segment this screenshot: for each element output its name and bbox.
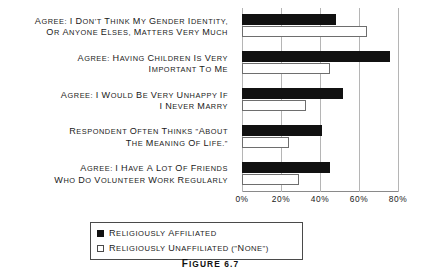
category-axis-labels: AGREE: I DON'T THINK MY GENDER IDENTITY,… [0, 8, 232, 192]
x-tick-label: 80% [389, 194, 407, 204]
bar-group [242, 87, 398, 113]
bar-unaffiliated [242, 137, 289, 148]
legend-label-affiliated: RELIGIOUSLY AFFILIATED [109, 228, 217, 238]
legend-item-affiliated: RELIGIOUSLY AFFILIATED [97, 227, 296, 239]
plot-area [242, 8, 398, 192]
x-tick-label: 60% [350, 194, 368, 204]
chart-legend: RELIGIOUSLY AFFILIATED RELIGIOUSLY UNAFF… [90, 222, 303, 260]
bar-unaffiliated [242, 26, 367, 37]
bar-group [242, 13, 398, 39]
category-label: AGREE: I WOULD BE VERY UNHAPPY IFI NEVER… [0, 90, 228, 113]
bar-unaffiliated [242, 100, 306, 111]
x-axis-tick-labels: 0%20%40%60%80% [242, 194, 398, 208]
legend-label-unaffiliated: RELIGIOUSLY UNAFFILIATED ("NONE") [109, 243, 269, 253]
category-label: AGREE: I HAVE A LOT OF FRIENDSWHO DO VOL… [0, 163, 228, 186]
bar-group [242, 50, 398, 76]
bar-chart: AGREE: I DON'T THINK MY GENDER IDENTITY,… [0, 0, 421, 200]
bar-group [242, 161, 398, 187]
bar-affiliated [242, 125, 322, 136]
category-label: AGREE: I DON'T THINK MY GENDER IDENTITY,… [0, 16, 228, 39]
x-tick-label: 20% [272, 194, 290, 204]
bar-group [242, 124, 398, 150]
legend-swatch-open-square-icon [97, 245, 104, 252]
bar-affiliated [242, 51, 390, 62]
bar-unaffiliated [242, 174, 299, 185]
figure-6-7: AGREE: I DON'T THINK MY GENDER IDENTITY,… [0, 0, 421, 278]
bar-affiliated [242, 162, 330, 173]
x-tick-label: 0% [235, 194, 248, 204]
legend-item-unaffiliated: RELIGIOUSLY UNAFFILIATED ("NONE") [97, 242, 296, 254]
figure-caption: FIGURE 6.7 [0, 258, 421, 269]
bar-unaffiliated [242, 63, 330, 74]
category-label: AGREE: HAVING CHILDREN IS VERYIMPORTANT … [0, 53, 228, 76]
x-tick-label: 40% [311, 194, 329, 204]
gridline-80pct [398, 8, 399, 192]
bar-affiliated [242, 14, 336, 25]
category-label: RESPONDENT OFTEN THINKS "ABOUTTHE MEANIN… [0, 126, 228, 149]
legend-swatch-filled-square-icon [97, 230, 104, 237]
bar-affiliated [242, 88, 343, 99]
